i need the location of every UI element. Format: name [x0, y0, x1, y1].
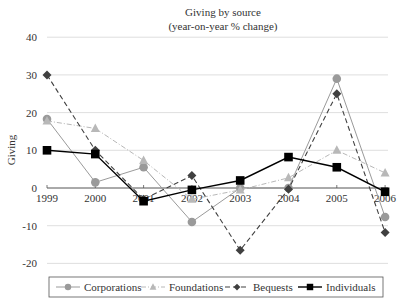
series-foundations	[43, 116, 390, 203]
x-tick-label: 2000	[84, 192, 107, 204]
triangle-marker	[381, 168, 390, 177]
x-tick-label: 1999	[36, 192, 59, 204]
x-tick-label: 2005	[326, 192, 349, 204]
y-tick-label: -10	[22, 220, 37, 232]
legend-square-marker	[307, 284, 313, 290]
plot-area	[43, 70, 390, 254]
legend-label-foundations: Foundations	[169, 281, 223, 293]
square-marker	[139, 197, 148, 206]
square-marker	[381, 187, 390, 196]
square-marker	[284, 153, 293, 162]
circle-marker	[139, 163, 148, 172]
chart: Giving by source (year-on-year % change)…	[0, 0, 402, 305]
series-line	[47, 75, 385, 250]
y-axis-label: Giving	[5, 134, 17, 165]
diamond-marker	[187, 171, 196, 180]
triangle-marker	[284, 173, 293, 182]
square-marker	[43, 146, 52, 155]
y-tick-label: 10	[26, 144, 38, 156]
series-bequests	[43, 70, 390, 254]
legend-label-bequests: Bequests	[253, 281, 293, 293]
y-tick-label: 30	[26, 69, 38, 81]
legend: CorporationsFoundationsBequestsIndividua…	[49, 277, 383, 297]
chart-title: Giving by source	[185, 6, 261, 18]
circle-marker	[91, 178, 100, 187]
y-tick-label: 40	[26, 31, 38, 43]
triangle-marker	[139, 155, 148, 164]
square-marker	[236, 176, 245, 185]
y-tick-label: 20	[26, 107, 38, 119]
x-tick-label: 2004	[278, 192, 301, 204]
legend-label-corporations: Corporations	[84, 281, 141, 293]
square-marker	[188, 186, 197, 195]
chart-subtitle: (year-on-year % change)	[168, 20, 277, 33]
diamond-marker	[381, 228, 390, 237]
legend-label-individuals: Individuals	[326, 281, 376, 293]
legend-circle-marker	[65, 284, 71, 290]
circle-marker	[333, 74, 342, 83]
circle-marker	[188, 218, 197, 227]
square-marker	[91, 150, 100, 159]
triangle-marker	[91, 123, 100, 132]
circle-marker	[381, 213, 390, 222]
diamond-marker	[332, 89, 341, 98]
y-tick-label: -20	[22, 257, 37, 269]
diamond-marker	[43, 70, 52, 79]
square-marker	[333, 163, 342, 172]
y-axis-ticks: 403020100-10-20	[22, 31, 37, 269]
triangle-marker	[332, 145, 341, 154]
